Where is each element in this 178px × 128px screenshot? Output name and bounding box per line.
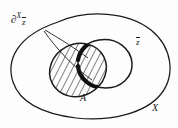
- boundary-superscript: X: [16, 11, 21, 20]
- hatched-set-label: A: [80, 93, 86, 103]
- boundary-subscript-zbar: z: [22, 18, 26, 27]
- math-figure: ∂Xz z A X: [0, 0, 178, 128]
- ambient-set-label: X: [152, 103, 158, 113]
- inner-set-label: z: [136, 38, 140, 47]
- inner-set-label-text: z: [136, 38, 140, 47]
- boundary-label: ∂Xz: [11, 12, 26, 27]
